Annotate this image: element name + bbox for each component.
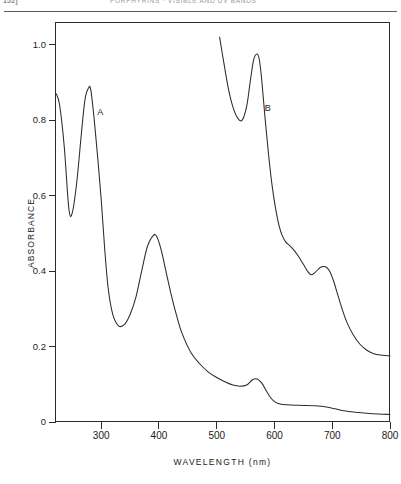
x-tick-mark	[101, 422, 102, 429]
y-tick-label: 0.4	[0, 265, 46, 276]
y-axis-title: ABSORBANCE	[26, 178, 36, 288]
y-tick-mark	[49, 422, 56, 423]
y-tick-label: 0.8	[0, 114, 46, 125]
x-tick-label: 300	[81, 430, 121, 441]
x-tick-label: 500	[197, 430, 237, 441]
y-tick-label: 0.2	[0, 341, 46, 352]
x-tick-mark	[390, 422, 391, 429]
x-tick-label: 700	[312, 430, 352, 441]
x-tick-label: 400	[139, 430, 179, 441]
x-tick-mark	[216, 422, 217, 429]
y-tick-label: 1.0	[0, 39, 46, 50]
y-tick-mark	[49, 195, 56, 196]
x-tick-mark	[332, 422, 333, 429]
y-tick-label: 0.6	[0, 190, 46, 201]
x-tick-mark	[158, 422, 159, 429]
plot-frame	[55, 22, 390, 422]
curve-label-a: A	[97, 107, 103, 117]
x-axis-title: WAVELENGTH (nm)	[55, 457, 390, 467]
y-tick-mark	[49, 44, 56, 45]
absorbance-spectrum-figure: 00.20.40.60.81.0 300400500600700800 ABSO…	[0, 0, 401, 484]
y-tick-mark	[49, 346, 56, 347]
y-tick-mark	[49, 271, 56, 272]
curve-label-b: B	[265, 103, 271, 113]
x-tick-mark	[274, 422, 275, 429]
x-tick-label: 800	[370, 430, 401, 441]
y-tick-mark	[49, 120, 56, 121]
y-tick-label: 0	[0, 416, 46, 427]
x-tick-label: 600	[254, 430, 294, 441]
